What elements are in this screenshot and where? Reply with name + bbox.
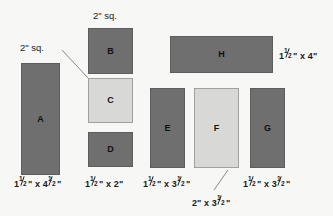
leader-line-f-dimension (214, 170, 228, 190)
piece-f-label: F (214, 124, 220, 133)
piece-b: B (88, 28, 133, 74)
dim-e-w-fraction: 12 (148, 178, 157, 187)
dim-d-w-den: 2 (94, 181, 98, 188)
dim-h-w-fraction: 12 (284, 50, 293, 59)
dim-f-h-fraction: 12 (217, 197, 226, 206)
piece-c-label: C (107, 96, 114, 105)
piece-f: F (194, 88, 239, 168)
dim-d-h-whole: 2 (114, 179, 119, 189)
dim-e-h-den: 2 (181, 181, 185, 188)
dim-e-h-fraction: 12 (177, 178, 186, 187)
callout-b-square-text: 2" sq. (93, 10, 117, 21)
cutting-diagram: A B C D E F G H 2" sq. 2" sq. 112" x 412… (0, 0, 333, 216)
dim-e-w-den: 2 (152, 181, 156, 188)
dim-a-w-den: 2 (23, 181, 27, 188)
callout-b-square: 2" sq. (93, 11, 117, 21)
dimension-label-e: 112" x 312" (143, 178, 190, 189)
dim-a-w-fraction: 12 (19, 178, 28, 187)
dim-a-h-fraction: 12 (48, 178, 57, 187)
dim-g-w-den: 2 (252, 181, 256, 188)
piece-h: H (170, 36, 273, 73)
leader-line-c-square (62, 50, 88, 78)
dimension-label-f: 2" x 312" (192, 197, 230, 208)
dimension-label-a: 112" x 412" (14, 178, 61, 189)
piece-g-label: G (264, 124, 271, 133)
dim-f-h-den: 2 (221, 200, 225, 207)
dimension-label-h: 112" x 4" (279, 50, 317, 61)
piece-a-label: A (37, 115, 44, 124)
piece-h-label: H (218, 50, 225, 59)
piece-a: A (21, 63, 60, 175)
dim-d-w-fraction: 12 (90, 178, 99, 187)
dim-h-w-den: 2 (288, 53, 292, 60)
dim-a-h-den: 2 (52, 181, 56, 188)
piece-e-label: E (164, 124, 170, 133)
piece-d-label: D (107, 145, 114, 154)
dim-g-h-den: 2 (281, 181, 285, 188)
piece-e: E (150, 88, 185, 168)
dim-f-w-whole: 2 (192, 198, 197, 208)
piece-c: C (88, 78, 133, 123)
piece-d: D (88, 132, 133, 167)
piece-b-label: B (107, 47, 114, 56)
callout-c-square: 2" sq. (20, 43, 44, 53)
dim-g-h-fraction: 12 (277, 178, 286, 187)
dim-g-w-fraction: 12 (248, 178, 257, 187)
dimension-label-g: 112" x 312" (243, 178, 290, 189)
dim-h-h-whole: 4 (308, 51, 313, 61)
dimension-label-d: 112" x 2" (85, 178, 123, 189)
callout-c-square-text: 2" sq. (20, 42, 44, 53)
piece-g: G (250, 88, 285, 168)
